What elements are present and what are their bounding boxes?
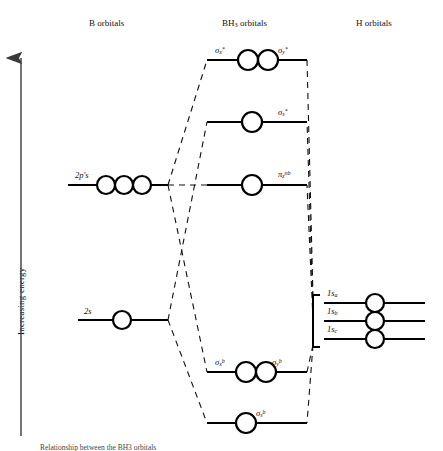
sigma-xy-star-orbital-circles [238,50,278,70]
orbital-circle [366,312,384,330]
orbital-circle [236,362,256,382]
b-orbital-levels [68,185,168,320]
orbital-circle [258,50,278,70]
h-orbital-circles [366,294,384,348]
sigma-s-star-orbital-circles [242,112,262,132]
mo-diagram-figure: B orbitals BH3 orbitals H orbitals Incre… [0,0,443,451]
orbital-circle [113,311,131,329]
b-2p-orbital-circles [97,176,151,194]
h-orbital-bracket [313,295,320,347]
orbital-circle [133,176,151,194]
orbital-circle [242,175,262,195]
orbital-circle [366,294,384,312]
orbital-circle [238,50,258,70]
orbital-circle [97,176,115,194]
orbital-circle [236,413,256,433]
orbital-circle [242,112,262,132]
sigma-s-b-orbital-circles [236,413,256,433]
mo-diagram-canvas [0,0,443,451]
orbital-circle [366,330,384,348]
sigma-xy-b-orbital-circles [236,362,276,382]
pi-z-nb-orbital-circles [242,175,262,195]
orbital-circle [115,176,133,194]
b-2s-orbital-circles [113,311,131,329]
orbital-circle [256,362,276,382]
